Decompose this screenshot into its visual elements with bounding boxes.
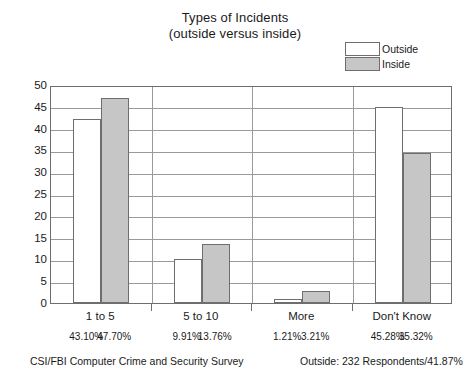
group-separator [152, 87, 153, 303]
bar-outside-5-to-10 [174, 259, 202, 303]
percent-label-inside: 35.32% [386, 331, 446, 342]
group-separator [252, 87, 253, 303]
bar-outside-don-t-know [375, 107, 403, 303]
x-axis-category-label: More [251, 310, 352, 322]
legend-item-outside: Outside [345, 41, 418, 56]
y-axis-tick-label: 15 [17, 233, 47, 244]
y-axis-tick-label: 20 [17, 211, 47, 222]
y-axis-tick-label: 0 [17, 298, 47, 309]
x-axis-category-label: Don't Know [352, 310, 453, 322]
y-axis-tick-label: 25 [17, 189, 47, 200]
x-axis-category-label: 5 to 10 [151, 310, 252, 322]
footer-source-text: CSI/FBI Computer Crime and Security Surv… [30, 355, 244, 367]
y-axis-tick-label: 40 [17, 124, 47, 135]
x-axis-category-label: 1 to 5 [50, 310, 151, 322]
plot-area [50, 86, 452, 304]
legend-item-inside: Inside [345, 56, 418, 71]
percent-label-inside: 3.21% [285, 331, 345, 342]
percent-label-inside: 47.70% [84, 331, 144, 342]
chart-legend: Outside Inside [345, 41, 418, 71]
legend-label-inside: Inside [382, 58, 410, 70]
bar-inside-more [302, 291, 330, 303]
legend-swatch-outside-icon [345, 42, 380, 56]
chart-subtitle: (outside versus inside) [0, 26, 470, 42]
bar-inside-don-t-know [403, 153, 431, 303]
bar-inside-5-to-10 [202, 244, 230, 303]
percent-label-inside: 13.76% [185, 331, 245, 342]
y-axis-tick-label: 45 [17, 102, 47, 113]
bar-outside-1-to-5 [73, 119, 101, 303]
bar-outside-more [274, 299, 302, 303]
y-axis-tick-label: 50 [17, 80, 47, 91]
y-axis-tick-label: 30 [17, 167, 47, 178]
legend-label-outside: Outside [382, 43, 418, 55]
bar-inside-1-to-5 [101, 98, 129, 303]
chart-title: Types of Incidents (outside versus insid… [0, 10, 470, 42]
y-axis-tick-label: 5 [17, 276, 47, 287]
y-axis-tick-label: 10 [17, 254, 47, 265]
chart-title-line1: Types of Incidents [182, 10, 289, 25]
group-separator [353, 87, 354, 303]
legend-swatch-inside-icon [345, 57, 380, 71]
footer-respondents-text: Outside: 232 Respondents/41.87% [300, 355, 463, 367]
y-axis-tick-label: 35 [17, 145, 47, 156]
